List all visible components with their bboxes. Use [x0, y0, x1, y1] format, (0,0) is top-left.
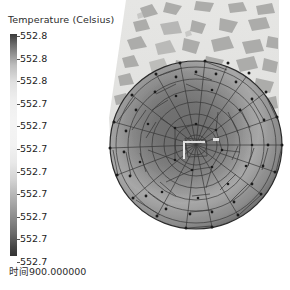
- visualization-window: Temperature (Celsius) 552.8552.8552.8552…: [0, 0, 290, 290]
- colorbar-tick-label: 552.8: [20, 30, 47, 42]
- simulation-time-label: 时间900.000000: [9, 264, 86, 278]
- colorbar-tick-label: 552.7: [20, 166, 47, 178]
- colorbar-tick-label: 552.7: [20, 233, 47, 245]
- colorbar-tick-label: 552.7: [20, 188, 47, 200]
- legend-title: Temperature (Celsius): [8, 14, 114, 25]
- colorbar-tick-label: 552.8: [20, 53, 47, 65]
- colorbar-tick-label: 552.7: [20, 143, 47, 155]
- colorbar-tick-label: 552.7: [20, 211, 47, 223]
- colorbar-tick-label: 552.8: [20, 75, 47, 87]
- colorbar-gradient-strip: [10, 34, 17, 256]
- colorbar-legend: Temperature (Celsius) 552.8552.8552.8552…: [0, 14, 126, 264]
- circular-mesh-body: [110, 61, 282, 229]
- colorbar-tick-label: 552.7: [20, 98, 47, 110]
- colorbar-tick-label: 552.7: [20, 120, 47, 132]
